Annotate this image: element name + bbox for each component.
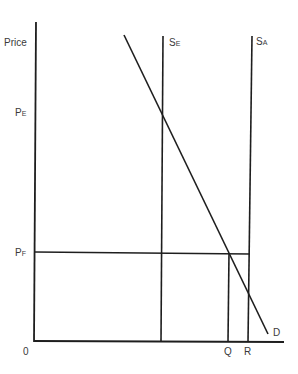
- quantity-label-q: Q: [224, 346, 232, 357]
- supply-label-se: SE: [169, 37, 181, 48]
- x-axis: [34, 341, 284, 342]
- y-axis: [34, 22, 36, 342]
- price-label-pe: PE: [15, 107, 27, 118]
- origin-label: 0: [23, 346, 29, 357]
- supply-label-sa: SA: [256, 36, 268, 47]
- y-axis-label: Price: [4, 37, 27, 48]
- supply-curve-se: [161, 36, 163, 341]
- quantity-label-r: R: [244, 346, 251, 357]
- supply-demand-diagram: Price PE PF SE SA 0 Q R D: [0, 0, 298, 374]
- demand-label: D: [273, 327, 280, 338]
- price-label-pf: PF: [15, 247, 26, 258]
- price-line-pf: [35, 252, 250, 254]
- quantity-line-q: [228, 253, 229, 342]
- demand-curve: [124, 35, 268, 334]
